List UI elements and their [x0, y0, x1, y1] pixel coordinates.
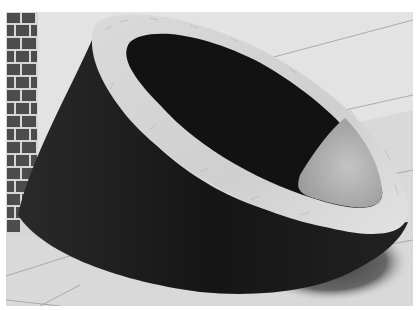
rendered-scene [0, 0, 418, 310]
